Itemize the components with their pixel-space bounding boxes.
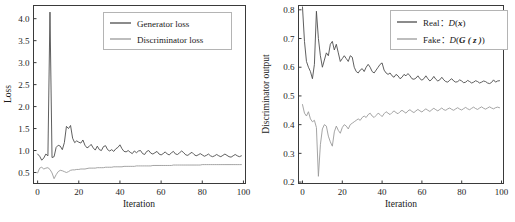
y-tick-label: 0.5 [283, 91, 295, 101]
output-legend-real-prefix: Real [423, 18, 440, 28]
output-legend-fake-close: ) [482, 35, 485, 45]
y-tick-label: 0.4 [283, 120, 295, 130]
x-tick-label: 0 [300, 187, 305, 197]
x-tick-label: 20 [74, 187, 84, 197]
y-tick-label: 1.0 [18, 146, 30, 156]
y-tick-label: 4.0 [18, 14, 30, 24]
x-tick-label: 40 [378, 187, 388, 197]
x-tick-label: 60 [417, 187, 427, 197]
y-tick-label: 3.5 [18, 36, 30, 46]
output-legend: Real：D(x) Fake：D(G ( z )) [391, 11, 508, 50]
y-tick-label: 2.5 [18, 80, 30, 90]
y-tick-label: 1.5 [18, 124, 30, 134]
output-xlabel: Iteration [385, 199, 417, 209]
x-tick-label: 80 [457, 187, 467, 197]
output-legend-fake-sep: ： [441, 35, 450, 45]
x-tick-label: 60 [157, 187, 167, 197]
loss-legend-label-generator: Generator loss [137, 19, 190, 29]
y-tick-label: 2.0 [18, 102, 30, 112]
output-legend-label-fake: Fake：D(G ( z )) [423, 35, 485, 45]
x-tick-label: 100 [495, 187, 509, 197]
x-tick-label: 20 [338, 187, 348, 197]
y-tick-label: 0.6 [283, 62, 295, 72]
loss-ylabel: Loss [3, 85, 13, 103]
output-chart-svg: 0.20.30.40.50.60.70.8 020406080100 Itera… [258, 0, 515, 222]
x-tick-label: 100 [237, 187, 251, 197]
y-tick-label: 3.0 [18, 58, 30, 68]
y-tick-label: 0.8 [283, 5, 295, 15]
y-tick-label: 0.7 [283, 34, 295, 44]
loss-chart-svg: 0.51.01.52.02.53.03.54.0 020406080100 It… [0, 0, 257, 222]
panel-loss-chart: 0.51.01.52.02.53.03.54.0 020406080100 It… [0, 0, 257, 222]
y-tick-label: 0.3 [283, 149, 295, 159]
output-legend-label-real: Real：D(x) [423, 18, 466, 28]
x-tick-label: 80 [198, 187, 208, 197]
output-legend-fake-var: G ( z ) [459, 35, 482, 45]
figure-two-panel-gan-training: 0.51.01.52.02.53.03.54.0 020406080100 It… [0, 0, 515, 222]
x-tick-label: 40 [115, 187, 125, 197]
y-tick-label: 0.5 [18, 168, 30, 178]
loss-xlabel: Iteration [123, 199, 155, 209]
panel-discriminator-output-chart: 0.20.30.40.50.60.70.8 020406080100 Itera… [258, 0, 515, 222]
loss-legend: Generator loss Discriminator loss [104, 13, 232, 50]
output-ylabel: Discriminator output [261, 54, 271, 134]
y-tick-label: 0.2 [283, 177, 294, 187]
output-legend-real-sep: ： [440, 18, 449, 28]
output-legend-real-close: ) [463, 18, 466, 28]
x-tick-label: 0 [35, 187, 40, 197]
output-legend-fake-prefix: Fake [423, 35, 441, 45]
loss-legend-label-discriminator: Discriminator loss [137, 35, 204, 45]
